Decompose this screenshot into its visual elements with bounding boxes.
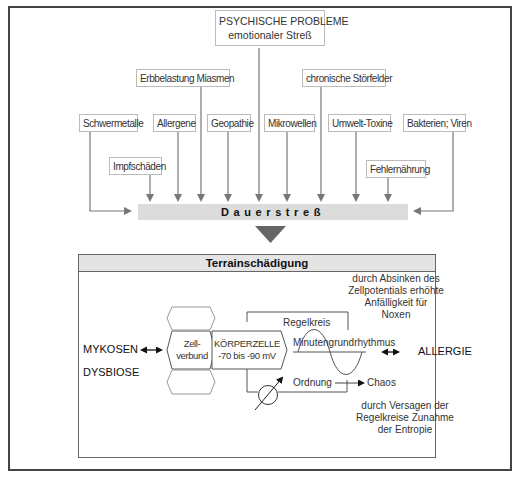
cell-line2: -70 bis -90 mV bbox=[212, 350, 282, 362]
koerperzelle-label: KÖRPERZELLE -70 bis -90 mV bbox=[212, 338, 282, 362]
note-line: Noxen bbox=[347, 309, 445, 321]
note-line: Zellpotentials erhöhte bbox=[347, 285, 445, 297]
ordnung-label: Ordnung bbox=[293, 377, 332, 388]
allergie-label: ALLERGIE bbox=[418, 345, 472, 357]
zell-line2: verbund bbox=[170, 350, 214, 362]
zell-line1: Zell- bbox=[170, 338, 214, 350]
minutengrundrhythmus-label: Minutengrundrhythmus bbox=[293, 337, 395, 348]
note-absinken: durch Absinken des Zellpotentials erhöht… bbox=[347, 273, 445, 321]
note-line: Anfälligkeit für bbox=[347, 297, 445, 309]
mykosen-label: MYKOSEN bbox=[83, 343, 138, 355]
regelkreis-label: Regelkreis bbox=[283, 317, 330, 328]
note-line: durch Absinken des bbox=[347, 273, 445, 285]
note-line: der Entropie bbox=[355, 424, 455, 436]
chaos-label: Chaos bbox=[367, 377, 396, 388]
note-versagen: durch Versagen der Regelkreise Zunahme d… bbox=[355, 400, 455, 436]
note-line: durch Versagen der bbox=[355, 400, 455, 412]
cell-line1: KÖRPERZELLE bbox=[212, 338, 282, 350]
zellverbund-label: Zell- verbund bbox=[170, 338, 214, 362]
note-line: Regelkreise Zunahme bbox=[355, 412, 455, 424]
dysbiose-label: DYSBIOSE bbox=[83, 366, 139, 378]
